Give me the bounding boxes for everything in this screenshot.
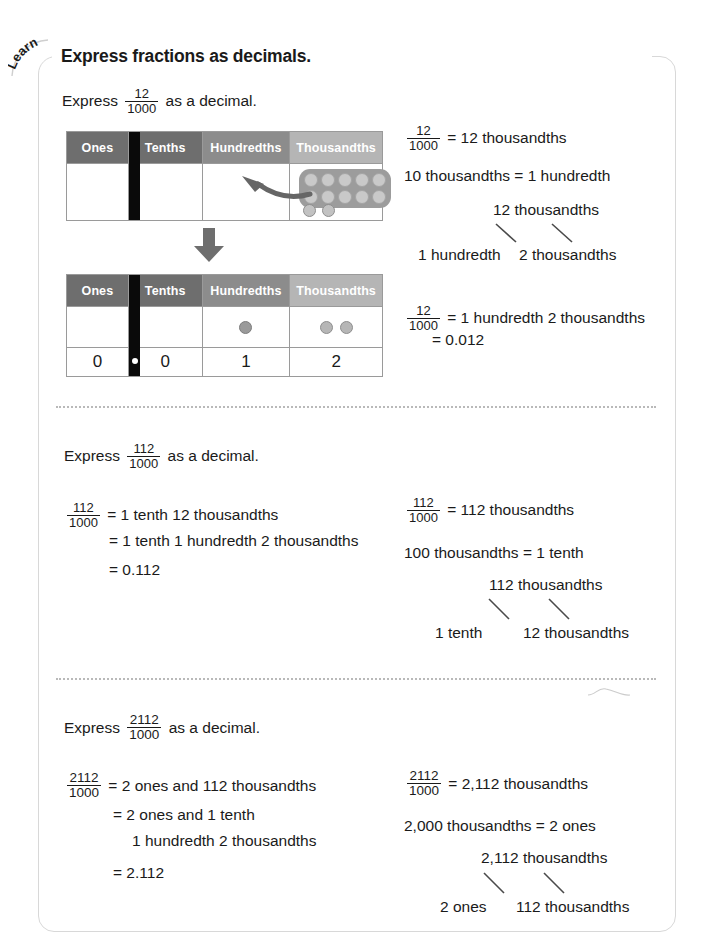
fraction-numerator: 112 xyxy=(67,501,100,516)
page-title: Express fractions as decimals. xyxy=(61,46,311,67)
fraction: 112 1000 xyxy=(67,501,100,529)
fraction-numerator: 12 xyxy=(407,124,440,139)
section2-left-line1: 112 1000 = 1 tenth 12 thousandths xyxy=(64,502,278,530)
counter-dot xyxy=(340,321,353,334)
section2-right-line1: 112 1000 = 112 thousandths xyxy=(404,497,574,525)
cell-ones xyxy=(67,164,129,220)
place-value-table-2: Ones Tenths Hundredths Thousandths 0 0 1… xyxy=(66,274,383,377)
table-header-row: Ones Tenths Hundredths Thousandths xyxy=(67,275,382,306)
digit-ones: 0 xyxy=(67,348,129,376)
counter-pair xyxy=(320,321,353,334)
decimal-separator-bar xyxy=(129,132,140,220)
fraction: 12 1000 xyxy=(407,304,440,332)
section-divider-1 xyxy=(56,406,656,408)
decimal-point xyxy=(132,358,138,364)
fraction-numerator: 2112 xyxy=(127,713,161,728)
header-thousandths: Thousandths xyxy=(290,132,382,163)
header-ones: Ones xyxy=(67,132,129,163)
learn-badge-label: Learn xyxy=(8,34,40,71)
equation-text: = 112 thousandths xyxy=(447,501,574,518)
fraction-numerator: 2112 xyxy=(407,769,441,784)
equation-text: = 2 ones and 112 thousandths xyxy=(108,777,316,794)
section2-left-line2: = 1 tenth 1 hundredth 2 thousandths xyxy=(109,531,359,550)
section1-prompt-prefix: Express xyxy=(62,92,118,109)
section3-right-line2: 2,000 thousandths = 2 ones xyxy=(404,816,596,835)
counter-dot xyxy=(372,173,386,187)
section1-prompt: Express 12 1000 as a decimal. xyxy=(62,88,257,116)
place-value-table-1: Ones Tenths Hundredths Thousandths xyxy=(66,131,383,221)
section1-right-line1: 12 1000 = 12 thousandths xyxy=(404,125,567,153)
fraction-denominator: 1000 xyxy=(127,728,161,742)
counter-dot xyxy=(355,190,369,204)
fraction-numerator: 112 xyxy=(407,496,440,511)
cell-ones xyxy=(67,307,129,347)
section2-prompt: Express 112 1000 as a decimal. xyxy=(64,443,259,471)
fraction: 2112 1000 xyxy=(407,769,441,798)
table-counter-row xyxy=(67,163,382,220)
section3-branch-diagram: 2,112 thousandths 2 ones 112 thousandths xyxy=(404,848,654,918)
cell-thousandths xyxy=(290,307,382,347)
equation-text: = 1 tenth 12 thousandths xyxy=(107,506,278,523)
section2-branch-diagram: 112 thousandths 1 tenth 12 thousandths xyxy=(404,575,654,645)
decimal-separator-bar xyxy=(129,275,140,376)
table-header-row: Ones Tenths Hundredths Thousandths xyxy=(67,132,382,163)
regroup-arrow-icon xyxy=(228,168,314,212)
fraction-denominator: 1000 xyxy=(407,139,440,153)
counter-row-bottom xyxy=(304,190,386,204)
counter-dot xyxy=(355,173,369,187)
equation-text: = 2,112 thousandths xyxy=(448,775,588,792)
section2-prompt-suffix: as a decimal. xyxy=(168,447,259,464)
section3-left-line1: 2112 1000 = 2 ones and 112 thousandths xyxy=(64,772,316,801)
fraction-denominator: 1000 xyxy=(407,784,441,798)
fraction-numerator: 12 xyxy=(125,87,158,102)
section3-left-line2: = 2 ones and 1 tenth xyxy=(113,805,255,824)
counter-dot xyxy=(338,173,352,187)
table-counter-row xyxy=(67,306,382,347)
section3-prompt-fraction: 2112 1000 xyxy=(127,713,161,742)
section3-right-line1: 2112 1000 = 2,112 thousandths xyxy=(404,770,588,799)
fraction: 112 1000 xyxy=(407,496,440,524)
equation-text: = 12 thousandths xyxy=(447,129,566,146)
cell-hundredths xyxy=(203,307,291,347)
section3-prompt-prefix: Express xyxy=(64,719,120,736)
fraction-numerator: 2112 xyxy=(67,771,101,786)
fraction: 12 1000 xyxy=(407,124,440,152)
fraction-denominator: 1000 xyxy=(407,511,440,525)
section2-left-line3: = 0.112 xyxy=(109,560,160,579)
counter-dot xyxy=(338,190,352,204)
section3-prompt: Express 2112 1000 as a decimal. xyxy=(64,714,260,743)
digit-hundredths: 1 xyxy=(203,348,291,376)
section1-right-line2: 10 thousandths = 1 hundredth xyxy=(404,166,610,185)
counter-dot xyxy=(321,173,335,187)
counter-dot xyxy=(321,190,335,204)
section2-right-line2: 100 thousandths = 1 tenth xyxy=(404,543,584,562)
section1-prompt-fraction: 12 1000 xyxy=(125,87,158,115)
section2-prompt-fraction: 112 1000 xyxy=(127,442,160,470)
header-hundredths: Hundredths xyxy=(203,132,291,163)
down-arrow-icon xyxy=(188,228,230,268)
counter-row-top xyxy=(304,173,386,187)
counter-dot xyxy=(320,321,333,334)
counter-dot xyxy=(239,321,252,334)
section1-right-line4: = 0.012 xyxy=(432,330,484,349)
fraction-numerator: 112 xyxy=(127,442,160,457)
svg-text:Learn: Learn xyxy=(8,34,40,71)
section1-branch-diagram: 12 thousandths 1 hundredth 2 thousandths xyxy=(404,200,654,270)
section-divider-2 xyxy=(56,678,656,680)
fraction-denominator: 1000 xyxy=(125,102,158,116)
header-ones: Ones xyxy=(67,275,129,306)
fraction-denominator: 1000 xyxy=(127,457,160,471)
fraction-denominator: 1000 xyxy=(67,786,101,800)
equation-text: = 1 hundredth 2 thousandths xyxy=(447,309,645,326)
counter-dot xyxy=(372,190,386,204)
squiggle-mark xyxy=(586,685,632,705)
section3-left-line4: = 2.112 xyxy=(113,863,164,882)
section1-prompt-suffix: as a decimal. xyxy=(166,92,257,109)
section3-prompt-suffix: as a decimal. xyxy=(169,719,260,736)
section3-left-line3: 1 hundredth 2 thousandths xyxy=(132,831,316,850)
digit-thousandths: 2 xyxy=(290,348,382,376)
fraction: 2112 1000 xyxy=(67,771,101,800)
header-hundredths: Hundredths xyxy=(203,275,291,306)
fraction-denominator: 1000 xyxy=(67,516,100,530)
table-digit-row: 0 0 1 2 xyxy=(67,347,382,376)
